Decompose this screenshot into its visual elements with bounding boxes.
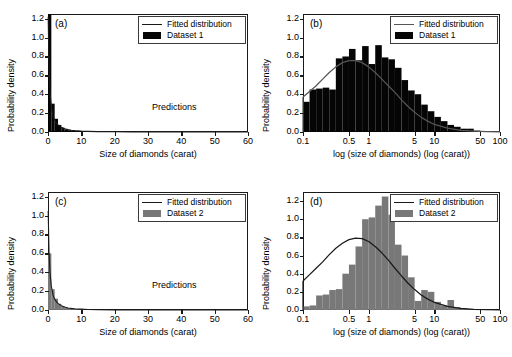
panel-label-d: (d) bbox=[310, 196, 322, 207]
panel-d: 0.00.20.40.60.81.01.20.10.5151050100Prob… bbox=[0, 0, 512, 357]
y-tick-label-d: 0.8 bbox=[273, 231, 299, 241]
legend-row-dataset-d[interactable]: Dataset 2 bbox=[394, 208, 493, 219]
legend-line-icon bbox=[394, 198, 414, 207]
x-tick-label-d: 100 bbox=[486, 314, 512, 324]
legend-row-fitted-d[interactable]: Fitted distribution bbox=[394, 197, 493, 208]
x-tick-label-d: 1 bbox=[355, 314, 383, 324]
x-tick-label-d: 10 bbox=[420, 314, 448, 324]
y-tick-mark-d bbox=[300, 256, 304, 257]
y-tick-mark-d bbox=[300, 219, 304, 220]
y-tick-label-d: 1.2 bbox=[273, 195, 299, 205]
y-tick-mark-d bbox=[300, 274, 304, 275]
x-tick-mark-d bbox=[303, 310, 304, 314]
legend-swatch-icon bbox=[394, 209, 414, 218]
y-tick-mark-d bbox=[300, 292, 304, 293]
x-tick-label-d: 0.1 bbox=[289, 314, 317, 324]
y-tick-label-d: 0.0 bbox=[273, 304, 299, 314]
y-tick-mark-d bbox=[300, 237, 304, 238]
x-tick-mark-d bbox=[500, 310, 501, 314]
legend-label-dataset: Dataset 2 bbox=[419, 208, 455, 219]
y-tick-label-d: 1.0 bbox=[273, 213, 299, 223]
x-tick-mark-d bbox=[415, 310, 416, 314]
y-tick-mark-d bbox=[300, 201, 304, 202]
x-tick-mark-d bbox=[480, 310, 481, 314]
figure-panel-grid: 0.00.20.40.60.81.01.20102030405060Probab… bbox=[0, 0, 512, 357]
y-tick-label-d: 0.4 bbox=[273, 268, 299, 278]
x-tick-mark-d bbox=[369, 310, 370, 314]
x-axis-label-d: log (size of diamonds) (log (carat)) bbox=[303, 327, 500, 337]
x-tick-mark-d bbox=[349, 310, 350, 314]
legend-d: Fitted distributionDataset 2 bbox=[390, 194, 498, 222]
y-tick-label-d: 0.2 bbox=[273, 286, 299, 296]
legend-label-fitted: Fitted distribution bbox=[419, 197, 484, 208]
y-axis-label-d: Probability density bbox=[261, 237, 271, 310]
y-tick-label-d: 0.6 bbox=[273, 250, 299, 260]
x-tick-mark-d bbox=[434, 310, 435, 314]
